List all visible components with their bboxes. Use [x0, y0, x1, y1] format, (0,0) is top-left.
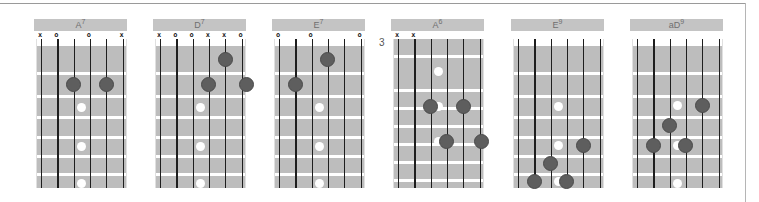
- fret-line: [514, 155, 603, 158]
- chord-name: D: [194, 20, 201, 30]
- finger-position-dot: [201, 77, 216, 92]
- string-line: [74, 39, 75, 188]
- finger-position-dot: [559, 174, 574, 189]
- fret-inlay-dot: [77, 179, 86, 188]
- string-line: [176, 39, 177, 188]
- finger-position-dot: [678, 138, 693, 153]
- fret-line: [394, 55, 483, 58]
- chord-extension: 7: [320, 18, 324, 25]
- muted-string-marker: x: [220, 31, 228, 39]
- string-line: [209, 39, 210, 188]
- chord-extension: 6: [439, 18, 443, 25]
- muted-string-marker: x: [204, 31, 212, 39]
- nut: [633, 39, 722, 46]
- fret-line: [156, 155, 245, 158]
- fret-line: [156, 116, 245, 119]
- fret-line: [37, 136, 126, 139]
- string-line: [41, 39, 42, 188]
- fret-inlay-dot: [315, 142, 324, 151]
- string-line: [447, 39, 448, 188]
- string-line: [463, 39, 464, 188]
- open-string-marker: o: [188, 31, 196, 39]
- fret-line: [275, 116, 364, 119]
- finger-position-dot: [646, 138, 661, 153]
- finger-position-dot: [474, 134, 489, 149]
- finger-position-dot: [456, 99, 471, 114]
- fret-line: [37, 155, 126, 158]
- finger-position-dot: [99, 77, 114, 92]
- chord-extension: 7: [201, 18, 205, 25]
- fret-line: [394, 125, 483, 128]
- chord-diagram-ad9: aD9: [630, 0, 726, 202]
- fret-line: [275, 136, 364, 139]
- string-line: [398, 39, 399, 188]
- finger-position-dot: [576, 138, 591, 153]
- muted-string-marker: x: [155, 31, 163, 39]
- string-line: [57, 39, 58, 188]
- open-string-marker: o: [274, 31, 282, 39]
- finger-position-dot: [66, 77, 81, 92]
- fret-line: [633, 72, 722, 75]
- fret-line: [156, 173, 245, 176]
- fret-line: [394, 161, 483, 164]
- fret-line: [275, 155, 364, 158]
- string-line: [106, 39, 107, 188]
- finger-position-dot: [527, 174, 542, 189]
- muted-string-marker: x: [118, 31, 126, 39]
- finger-position-dot: [239, 77, 254, 92]
- nut: [156, 39, 245, 46]
- string-line: [637, 39, 638, 188]
- chord-name: A: [433, 20, 439, 30]
- fret-line: [275, 72, 364, 75]
- fret-inlay-dot: [196, 103, 205, 112]
- string-line: [567, 39, 568, 188]
- string-line: [518, 39, 519, 188]
- finger-position-dot: [218, 52, 233, 67]
- fret-line: [633, 173, 722, 176]
- chord-diagram-a6: A6xx3: [391, 0, 487, 202]
- fret-line: [275, 95, 364, 98]
- string-line: [361, 39, 362, 188]
- chord-diagram-a7: A7xoox: [34, 0, 130, 202]
- finger-position-dot: [662, 118, 677, 133]
- string-line: [344, 39, 345, 188]
- nut: [37, 39, 126, 46]
- fret-inlay-dot: [77, 103, 86, 112]
- chord-name: E: [553, 20, 559, 30]
- finger-position-dot: [439, 134, 454, 149]
- chord-title: D7: [153, 19, 246, 31]
- finger-position-dot: [695, 98, 710, 113]
- open-string-marker: o: [307, 31, 315, 39]
- fret-line: [37, 95, 126, 98]
- fret-inlay-dot: [434, 67, 443, 76]
- string-line: [414, 39, 415, 188]
- fret-inlay-dot: [554, 141, 563, 150]
- string-line: [90, 39, 91, 188]
- fret-line: [514, 116, 603, 119]
- string-line: [686, 39, 687, 188]
- fretboard: [632, 39, 723, 188]
- string-line: [583, 39, 584, 188]
- chord-diagram-e9: E9: [511, 0, 607, 202]
- fret-inlay-dot: [673, 101, 682, 110]
- string-line: [480, 39, 481, 188]
- string-line: [431, 39, 432, 188]
- chord-title: aD9: [630, 19, 723, 31]
- fretboard: [36, 39, 127, 188]
- chord-name: E: [314, 20, 320, 30]
- string-line: [242, 39, 243, 188]
- open-string-marker: o: [171, 31, 179, 39]
- page-right-border: [745, 3, 746, 202]
- chord-name: aD: [669, 20, 681, 30]
- chord-diagram-d7: D7xooxxo: [153, 0, 249, 202]
- fretboard: [513, 39, 604, 188]
- finger-position-dot: [543, 156, 558, 171]
- chord-title: A7: [34, 19, 127, 31]
- string-line: [193, 39, 194, 188]
- muted-string-marker: x: [393, 31, 401, 39]
- finger-position-dot: [320, 52, 335, 67]
- string-line: [295, 39, 296, 188]
- nut: [514, 39, 603, 46]
- fret-line: [156, 136, 245, 139]
- chord-diagram-e7: E7ooo: [272, 0, 368, 202]
